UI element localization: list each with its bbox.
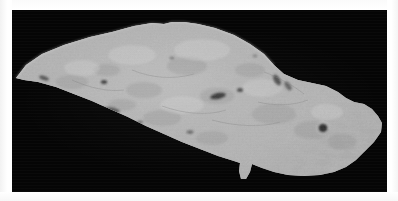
figure-page xyxy=(0,0,398,201)
page-margin-bottom xyxy=(0,192,398,201)
page-margin-right xyxy=(387,0,398,201)
photograph-plate xyxy=(12,10,387,192)
page-margin-top xyxy=(0,0,398,10)
stone-specimen-graphic xyxy=(12,10,387,192)
specimen-image xyxy=(12,10,387,192)
page-margin-left xyxy=(0,0,12,201)
